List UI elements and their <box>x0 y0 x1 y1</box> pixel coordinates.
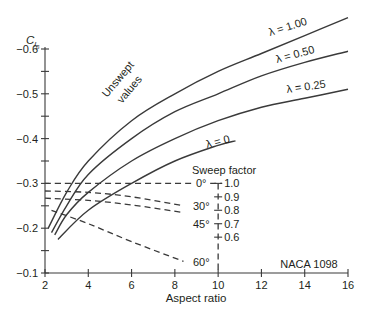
series-label-lambda-025: λ = 0.25 <box>286 78 327 95</box>
series-line-2 <box>55 89 348 235</box>
sweep-label-0: 0° <box>196 177 207 189</box>
sweep-factor-tick-label: 0.6 <box>224 231 239 243</box>
x-tick-label: 6 <box>129 279 135 291</box>
x-tick-label: 16 <box>342 279 354 291</box>
labels: Clβ Aspect ratio Unswept values NACA 109… <box>26 15 338 304</box>
y-tick-label: −0.1 <box>16 267 38 279</box>
y-tick-label: −0.5 <box>16 88 38 100</box>
sweep-factor-tick-label: 0.7 <box>224 218 239 230</box>
x-tick-label: 12 <box>255 279 267 291</box>
sweep-factor-tick-label: 0.8 <box>224 204 239 216</box>
sweep-lines: 1.00.90.80.70.6 <box>45 177 239 273</box>
sweep-factor-title: Sweep factor <box>192 164 257 176</box>
x-tick-label: 4 <box>85 279 91 291</box>
chart: −0.1−0.2−0.3−0.4−0.5−0.6246810121416 1.0… <box>0 0 372 321</box>
series-label-lambda-0: λ = 0 <box>205 132 231 149</box>
annotation-source: NACA 1098 <box>280 258 337 270</box>
x-tick-label: 2 <box>42 279 48 291</box>
y-tick-label: −0.3 <box>16 177 38 189</box>
sweep-line-3 <box>52 210 184 261</box>
sweep-label-30: 30° <box>193 200 210 212</box>
sweep-label-60: 60° <box>193 256 210 268</box>
sweep-factor-tick-label: 1.0 <box>224 177 239 189</box>
sweep-label-45: 45° <box>193 218 210 230</box>
sweep-line-2 <box>45 198 184 212</box>
x-tick-label: 10 <box>212 279 224 291</box>
sweep-factor-tick-label: 0.9 <box>224 191 239 203</box>
y-tick-label: −0.4 <box>16 133 38 145</box>
y-tick-label: −0.2 <box>16 222 38 234</box>
x-tick-label: 14 <box>299 279 311 291</box>
x-axis-title: Aspect ratio <box>166 292 227 304</box>
x-tick-label: 8 <box>172 279 178 291</box>
series-label-lambda-1: λ = 1.00 <box>267 15 308 38</box>
